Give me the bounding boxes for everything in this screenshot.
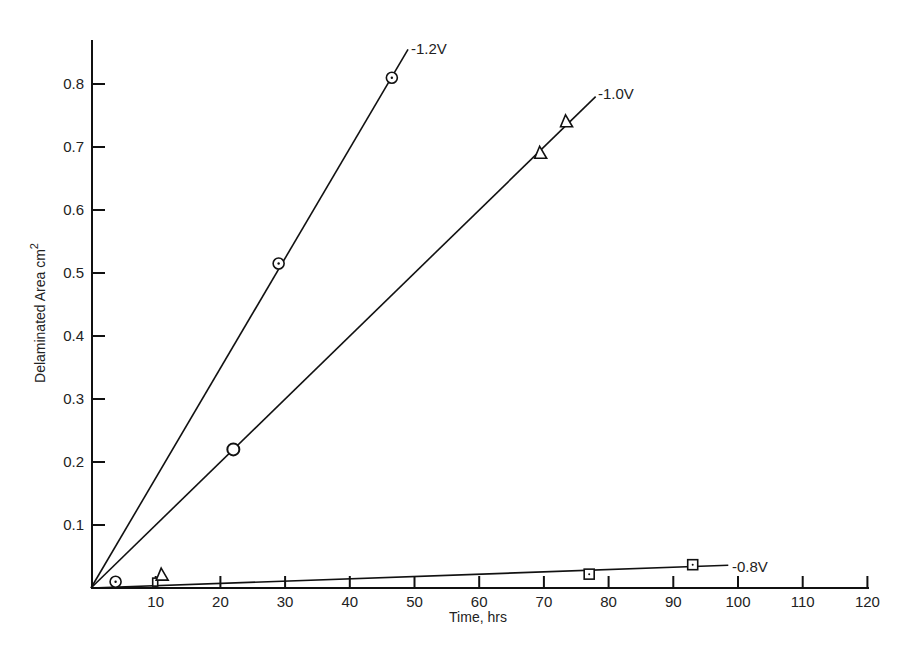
- x-tick-label: 30: [277, 593, 294, 610]
- marker-dot: [277, 262, 279, 264]
- fit-line: [91, 565, 728, 588]
- series-label-minus-1-0v: -1.0V: [598, 85, 634, 102]
- x-tick-label: 50: [406, 593, 423, 610]
- y-ticks: [92, 84, 105, 525]
- x-tick-label: 120: [855, 593, 880, 610]
- series-label-minus-1-2v: -1.2V: [411, 40, 447, 57]
- y-axis-title: Delaminated Area cm2: [28, 243, 48, 383]
- marker-dot: [588, 573, 590, 575]
- axes: [91, 40, 869, 589]
- x-tick-label: 90: [665, 593, 682, 610]
- triangle-marker-icon: [156, 568, 168, 580]
- y-tick-labels: 0.10.20.30.40.50.60.70.8: [63, 75, 84, 533]
- x-tick-label: 80: [600, 593, 617, 610]
- y-tick-label: 0.3: [63, 390, 84, 407]
- x-tick-label: 40: [341, 593, 358, 610]
- fit-lines: [91, 49, 728, 588]
- triangle-marker-icon: [535, 146, 547, 158]
- y-tick-label: 0.4: [63, 327, 84, 344]
- y-tick-label: 0.7: [63, 138, 84, 155]
- x-tick-label: 10: [147, 593, 164, 610]
- x-tick-label: 110: [791, 593, 815, 610]
- data-markers: [110, 72, 698, 587]
- y-tick-label: 0.6: [63, 201, 84, 218]
- x-tick-label: 70: [536, 593, 553, 610]
- y-tick-label: 0.1: [63, 516, 84, 533]
- y-tick-label: 0.2: [63, 453, 84, 470]
- y-tick-label: 0.5: [63, 264, 84, 281]
- x-tick-label: 100: [725, 593, 750, 610]
- x-tick-label: 20: [212, 593, 229, 610]
- marker-dot: [114, 581, 116, 583]
- marker-dot: [692, 564, 694, 566]
- x-tick-labels: 102030405060708090100110120: [147, 593, 880, 610]
- fit-line: [91, 49, 408, 588]
- y-tick-label: 0.8: [63, 75, 84, 92]
- series-label-minus-0-8v: -0.8V: [732, 558, 768, 575]
- fit-line: [91, 97, 596, 588]
- marker-dot: [391, 77, 393, 79]
- x-axis-title: Time, hrs: [449, 609, 507, 625]
- delamination-chart: 0.10.20.30.40.50.60.70.8 102030405060708…: [0, 0, 910, 662]
- circle-marker-icon: [227, 443, 239, 455]
- x-tick-label: 60: [471, 593, 488, 610]
